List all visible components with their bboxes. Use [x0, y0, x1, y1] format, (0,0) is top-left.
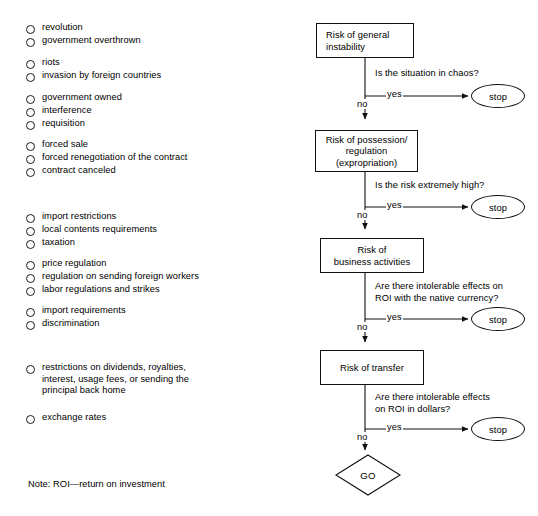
no-label-4: no	[356, 432, 368, 442]
stop-label: stop	[489, 91, 507, 102]
list-item: interference	[26, 105, 122, 117]
bullet-circle-icon	[26, 308, 35, 317]
list-item: labor regulations and strikes	[26, 284, 199, 296]
stop-label: stop	[489, 314, 507, 325]
list-item-label: import requirements	[42, 305, 126, 317]
list-item-label: restrictions on dividends, royalties, in…	[42, 362, 189, 397]
list-item-label: riots	[42, 57, 60, 69]
bullet-circle-icon	[26, 108, 35, 117]
node-label: Risk of possession/ regulation (expropri…	[326, 134, 408, 168]
list-item: contract canceled	[26, 165, 187, 177]
bullet-circle-icon	[26, 142, 35, 151]
list-item: requisition	[26, 118, 122, 130]
risk-group: riots invasion by foreign countries	[26, 57, 161, 83]
list-item: taxation	[26, 237, 157, 249]
list-item-label: taxation	[42, 237, 75, 249]
node-risk-business-activities[interactable]: Risk of business activities	[320, 238, 424, 273]
yes-label-1: yes	[386, 89, 403, 99]
no-label-2: no	[356, 210, 368, 220]
stop-label: stop	[489, 202, 507, 213]
bullet-circle-icon	[26, 274, 35, 283]
node-risk-transfer[interactable]: Risk of transfer	[320, 350, 424, 385]
go-label: GO	[360, 470, 376, 481]
no-label-1: no	[356, 99, 368, 109]
bullet-circle-icon	[26, 60, 35, 69]
list-item: invasion by foreign countries	[26, 70, 161, 82]
list-item-label: government overthrown	[42, 35, 141, 47]
bullet-circle-icon	[26, 168, 35, 177]
bullet-circle-icon	[26, 321, 35, 330]
list-item: local contents requirements	[26, 224, 157, 236]
list-item-label: forced renegotiation of the contract	[42, 152, 187, 164]
list-item: restrictions on dividends, royalties, in…	[26, 362, 189, 397]
bullet-circle-icon	[26, 287, 35, 296]
list-item: discrimination	[26, 318, 126, 330]
list-item: import restrictions	[26, 211, 157, 223]
bullet-circle-icon	[26, 261, 35, 270]
stop-node-1[interactable]: stop	[471, 84, 525, 108]
node-risk-general-instability[interactable]: Risk of general instability	[316, 23, 414, 58]
list-item-label: price regulation	[42, 258, 106, 270]
node-label: Risk of business activities	[334, 244, 411, 267]
list-item-label: interference	[42, 105, 92, 117]
node-risk-possession-regulation[interactable]: Risk of possession/ regulation (expropri…	[315, 130, 418, 172]
question-label-1: Is the situation in chaos?	[375, 68, 479, 80]
risk-group: import restrictions local contents requi…	[26, 211, 157, 250]
list-item: revolution	[26, 22, 141, 34]
list-item-label: discrimination	[42, 318, 100, 330]
list-item-label: forced sale	[42, 139, 88, 151]
risk-group: revolution government overthrown	[26, 22, 141, 48]
list-item-label: labor regulations and strikes	[42, 284, 160, 296]
yes-label-2: yes	[386, 200, 403, 210]
list-item: import requirements	[26, 305, 126, 317]
bullet-circle-icon	[26, 365, 35, 374]
list-item-label: government owned	[42, 92, 122, 104]
list-item-label: regulation on sending foreign workers	[42, 271, 199, 283]
question-label-2: Is the risk extremely high?	[375, 180, 484, 192]
diagram-page: revolution government overthrown riots i…	[0, 0, 538, 516]
node-label: Risk of transfer	[340, 362, 404, 373]
list-item-label: revolution	[42, 22, 83, 34]
question-label-3: Are there intolerable effects on ROI wit…	[375, 281, 503, 304]
list-item-label: invasion by foreign countries	[42, 70, 161, 82]
stop-node-3[interactable]: stop	[471, 307, 525, 331]
bullet-circle-icon	[26, 38, 35, 47]
bullet-circle-icon	[26, 73, 35, 82]
node-label: Risk of general instability	[326, 29, 389, 52]
list-item: regulation on sending foreign workers	[26, 271, 199, 283]
list-item-label: requisition	[42, 118, 85, 130]
bullet-circle-icon	[26, 415, 35, 424]
list-item-label: exchange rates	[42, 412, 106, 424]
bullet-circle-icon	[26, 121, 35, 130]
footnote: Note: ROI—return on investment	[28, 479, 165, 489]
no-label-3: no	[356, 322, 368, 332]
go-node[interactable]: GO	[336, 455, 400, 495]
bullet-circle-icon	[26, 155, 35, 164]
decision-flowchart: Risk of general instability Is the situa…	[290, 0, 538, 516]
list-item: forced sale	[26, 139, 187, 151]
question-label-4: Are there intolerable effects on ROI in …	[375, 392, 490, 415]
list-item-label: local contents requirements	[42, 224, 157, 236]
bullet-circle-icon	[26, 240, 35, 249]
risk-group: restrictions on dividends, royalties, in…	[26, 362, 189, 398]
stop-node-2[interactable]: stop	[471, 195, 525, 219]
list-item: exchange rates	[26, 412, 106, 424]
list-item: government overthrown	[26, 35, 141, 47]
risk-group: price regulation regulation on sending f…	[26, 258, 199, 297]
risk-factor-list: revolution government overthrown riots i…	[0, 0, 290, 516]
bullet-circle-icon	[26, 214, 35, 223]
risk-group: exchange rates	[26, 412, 106, 425]
yes-label-3: yes	[386, 312, 403, 322]
bullet-circle-icon	[26, 95, 35, 104]
risk-group: forced sale forced renegotiation of the …	[26, 139, 187, 178]
list-item-label: contract canceled	[42, 165, 116, 177]
stop-node-4[interactable]: stop	[471, 417, 525, 441]
list-item: price regulation	[26, 258, 199, 270]
list-item: riots	[26, 57, 161, 69]
list-item: government owned	[26, 92, 122, 104]
list-item-label: import restrictions	[42, 211, 116, 223]
yes-label-4: yes	[386, 422, 403, 432]
risk-group: government owned interference requisitio…	[26, 92, 122, 131]
bullet-circle-icon	[26, 227, 35, 236]
risk-group: import requirements discrimination	[26, 305, 126, 331]
